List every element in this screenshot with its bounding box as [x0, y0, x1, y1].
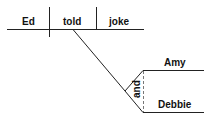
verb-word: told — [63, 16, 81, 27]
indirect-object-word-1: Amy — [164, 57, 186, 68]
subject-word: Ed — [22, 16, 35, 27]
direct-object-word: joke — [108, 16, 129, 27]
conjunction-word: and — [131, 80, 142, 98]
indirect-object-word-2: Debbie — [158, 99, 192, 110]
indirect-object-diagonal — [73, 30, 125, 92]
sentence-diagram: Ed told joke and Amy Debbie — [0, 0, 208, 118]
